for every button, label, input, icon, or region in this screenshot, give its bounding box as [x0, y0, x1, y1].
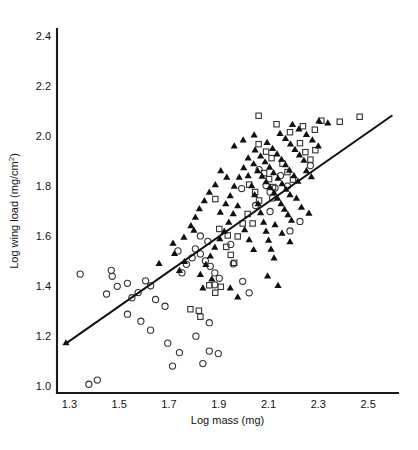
x-tick-label: 2.1	[261, 398, 276, 410]
point-triangle	[230, 210, 237, 216]
point-circle	[77, 271, 83, 277]
point-triangle	[291, 146, 298, 152]
point-square	[287, 130, 292, 135]
point-circle	[267, 208, 273, 214]
point-triangle	[274, 175, 281, 181]
point-square	[303, 149, 308, 154]
point-triangle	[269, 145, 276, 151]
x-axis-title: Log mass (mg)	[191, 414, 264, 426]
point-circle	[108, 267, 114, 273]
point-triangle	[231, 142, 238, 148]
point-square	[196, 308, 201, 313]
point-circle	[297, 218, 303, 224]
point-circle	[176, 350, 182, 356]
point-square	[213, 290, 218, 295]
point-square	[297, 140, 302, 145]
point-circle	[215, 351, 221, 357]
point-circle	[239, 185, 245, 191]
point-triangle	[262, 227, 269, 233]
point-square	[198, 314, 203, 319]
point-triangle	[276, 130, 283, 136]
point-triangle	[217, 167, 224, 173]
point-circle	[200, 360, 206, 366]
point-triangle	[282, 161, 289, 167]
y-tick-label: 2.4	[36, 30, 51, 42]
y-tick-label: 2.0	[36, 130, 51, 142]
x-tick-label: 2.5	[360, 398, 375, 410]
point-circle	[86, 381, 92, 387]
point-triangle	[192, 213, 199, 219]
series-triangle	[62, 117, 331, 345]
point-triangle	[231, 183, 238, 189]
point-circle	[114, 283, 120, 289]
point-circle	[147, 327, 153, 333]
point-triangle	[264, 272, 271, 278]
point-triangle	[207, 252, 214, 258]
point-square	[269, 155, 274, 160]
point-square	[308, 157, 313, 162]
point-triangle	[286, 238, 293, 244]
point-circle	[216, 275, 222, 281]
point-triangle	[245, 172, 252, 178]
point-triangle	[201, 197, 208, 203]
point-square	[337, 119, 342, 124]
point-square	[218, 284, 223, 289]
point-triangle	[290, 172, 297, 178]
point-circle	[138, 318, 144, 324]
series-square	[188, 113, 363, 319]
point-circle	[169, 363, 175, 369]
x-tick-label: 1.5	[112, 398, 127, 410]
point-triangle	[263, 139, 270, 145]
point-square	[312, 127, 317, 132]
point-triangle	[278, 180, 285, 186]
point-triangle	[197, 271, 204, 277]
point-triangle	[281, 206, 288, 212]
point-triangle	[288, 216, 295, 222]
point-triangle	[254, 167, 261, 173]
point-circle	[212, 282, 218, 288]
point-circle	[165, 340, 171, 346]
point-triangle	[278, 156, 285, 162]
point-triangle	[250, 246, 257, 252]
point-triangle	[260, 218, 267, 224]
point-triangle	[267, 245, 274, 251]
point-square	[188, 307, 193, 312]
point-circle	[206, 320, 212, 326]
point-triangle	[251, 131, 258, 137]
point-triangle	[223, 174, 230, 180]
y-tick-label: 1.2	[36, 330, 51, 342]
x-tick-label: 2.3	[311, 398, 326, 410]
tick-labels: 1.31.51.71.92.12.32.51.01.21.41.61.82.02…	[36, 30, 376, 410]
point-circle	[162, 303, 168, 309]
point-triangle	[211, 243, 218, 249]
point-triangle	[187, 222, 194, 228]
point-circle	[103, 291, 109, 297]
x-tick-label: 1.9	[211, 398, 226, 410]
y-tick-label: 2.2	[36, 80, 51, 92]
trendline	[66, 116, 392, 344]
point-triangle	[271, 221, 278, 227]
axes	[57, 29, 398, 393]
point-triangle	[180, 233, 187, 239]
point-triangle	[250, 160, 257, 166]
point-triangle	[296, 151, 303, 157]
point-circle	[287, 228, 293, 234]
point-triangle	[217, 208, 224, 214]
point-triangle	[273, 150, 280, 156]
point-triangle	[227, 192, 234, 198]
y-tick-label: 1.4	[36, 280, 51, 292]
point-square	[213, 196, 218, 201]
point-triangle	[305, 209, 312, 215]
point-square	[274, 122, 279, 127]
point-triangle	[266, 164, 273, 170]
point-triangle	[199, 284, 206, 290]
point-triangle	[277, 200, 284, 206]
point-square	[256, 141, 261, 146]
point-circle	[143, 278, 149, 284]
point-square	[228, 252, 233, 257]
point-triangle	[287, 140, 294, 146]
data-points	[62, 113, 362, 387]
point-triangle	[240, 136, 247, 142]
point-triangle	[225, 218, 232, 224]
point-triangle	[206, 189, 213, 195]
